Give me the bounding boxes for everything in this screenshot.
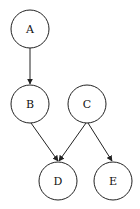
node-label: E — [109, 175, 117, 188]
node-label: A — [25, 23, 35, 36]
node-e: E — [94, 162, 132, 200]
node-c: C — [68, 85, 106, 123]
edge-b-d — [31, 123, 58, 161]
node-label: D — [54, 175, 63, 188]
node-b: B — [11, 85, 49, 123]
edge-c-d — [59, 123, 86, 161]
node-a: A — [11, 10, 49, 48]
node-label: B — [26, 98, 34, 111]
graph-canvas: A B C D E — [0, 0, 140, 209]
edge-c-e — [88, 123, 112, 161]
node-d: D — [39, 162, 77, 200]
node-label: C — [83, 98, 91, 111]
